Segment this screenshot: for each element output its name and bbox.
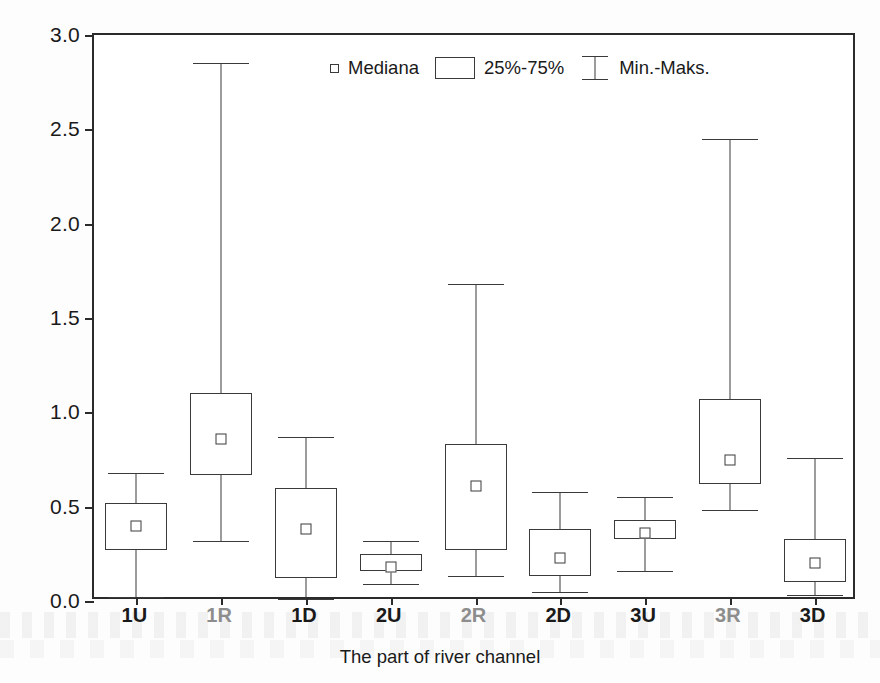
whisker-cap-max bbox=[363, 541, 419, 542]
median-marker bbox=[640, 528, 651, 539]
x-axis-label-1U: 1U bbox=[122, 604, 148, 627]
iqr-box bbox=[699, 399, 761, 484]
y-axis-tick-label: 2.5 bbox=[50, 117, 80, 141]
whisker-cap-min bbox=[532, 592, 588, 593]
legend-item-iqr: 25%-75% bbox=[435, 57, 564, 79]
y-axis-tick-label: 0.5 bbox=[50, 495, 80, 519]
legend-label-iqr: 25%-75% bbox=[484, 57, 564, 79]
y-axis-tick bbox=[85, 507, 94, 509]
median-marker bbox=[385, 562, 396, 573]
whisker-cap-max bbox=[278, 437, 334, 438]
whisker-cap-min bbox=[363, 584, 419, 585]
y-axis-tick-label: 3.0 bbox=[50, 23, 80, 47]
whisker-cap-max bbox=[617, 497, 673, 498]
whisker-cap-max bbox=[787, 458, 843, 459]
y-axis-tick bbox=[85, 318, 94, 320]
median-marker bbox=[470, 480, 481, 491]
y-axis-tick bbox=[85, 129, 94, 131]
x-axis-label-2R: 2R bbox=[461, 604, 487, 627]
whisker-cap-max bbox=[448, 284, 504, 285]
whisker-cap-max bbox=[532, 492, 588, 493]
y-axis-tick bbox=[85, 412, 94, 414]
x-axis-label-2D: 2D bbox=[545, 604, 571, 627]
legend-label-range: Min.-Maks. bbox=[619, 57, 709, 79]
x-axis-label-2U: 2U bbox=[376, 604, 402, 627]
x-axis-label-1R: 1R bbox=[206, 604, 232, 627]
y-axis-tick-label: 2.0 bbox=[50, 212, 80, 236]
x-axis-label-3D: 3D bbox=[800, 604, 826, 627]
y-axis-tick-label: 1.0 bbox=[50, 400, 80, 424]
whisker-cap-max bbox=[193, 63, 249, 64]
median-marker bbox=[300, 524, 311, 535]
plot-frame: 0.00.51.01.52.02.53.0 bbox=[92, 33, 855, 599]
iqr-box bbox=[445, 444, 507, 550]
whisker-cap-max bbox=[702, 139, 758, 140]
whisker-cap-min bbox=[448, 576, 504, 577]
x-axis-label-3U: 3U bbox=[630, 604, 656, 627]
chart-page: The average values of velocities - V [m … bbox=[0, 0, 880, 683]
x-axis-label-1D: 1D bbox=[291, 604, 317, 627]
y-axis-tick bbox=[85, 224, 94, 226]
whisker-stem bbox=[595, 56, 596, 80]
legend-label-median: Mediana bbox=[348, 57, 419, 79]
median-marker bbox=[724, 454, 735, 465]
y-axis-tick-label: 1.5 bbox=[50, 306, 80, 330]
whisker-cap-min bbox=[193, 541, 249, 542]
y-axis-tick bbox=[85, 35, 94, 37]
median-marker bbox=[809, 558, 820, 569]
whisker-cap-min bbox=[702, 510, 758, 511]
legend-item-range: Min.-Maks. bbox=[580, 55, 709, 81]
whisker-cap-max bbox=[108, 473, 164, 474]
whisker-cap-min bbox=[617, 571, 673, 572]
median-marker bbox=[131, 520, 142, 531]
plot-area: 0.00.51.01.52.02.53.0 bbox=[94, 35, 853, 597]
whisker-cap-bottom bbox=[582, 79, 608, 80]
x-axis-label-3R: 3R bbox=[715, 604, 741, 627]
legend-item-median: Mediana bbox=[330, 57, 419, 79]
y-axis-tick bbox=[85, 601, 94, 603]
box-marker-icon bbox=[435, 57, 475, 79]
median-marker bbox=[555, 552, 566, 563]
whisker-marker-icon bbox=[580, 55, 610, 81]
median-marker-icon bbox=[330, 64, 339, 73]
y-axis-tick-label: 0.0 bbox=[50, 589, 80, 613]
legend: Mediana 25%-75% Min.-Maks. bbox=[330, 55, 710, 81]
x-axis-title: The part of river channel bbox=[0, 646, 880, 668]
median-marker bbox=[216, 433, 227, 444]
